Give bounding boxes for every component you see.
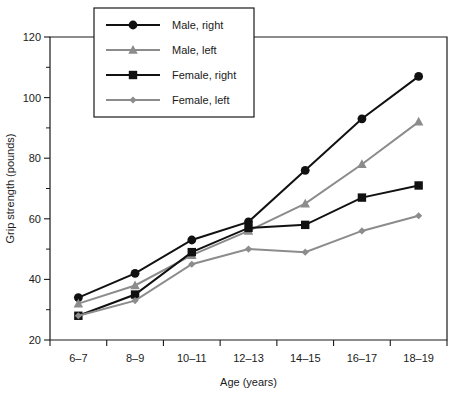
data-point xyxy=(358,193,366,201)
data-point xyxy=(301,166,310,175)
x-tick-label: 8–9 xyxy=(126,352,144,364)
data-point xyxy=(130,280,140,289)
data-point xyxy=(131,269,140,278)
x-tick-label: 12–13 xyxy=(233,352,264,364)
data-point xyxy=(414,181,422,189)
y-axis-title: Grip strength (pounds) xyxy=(4,133,16,243)
legend-marker-circle xyxy=(129,21,138,30)
legend-label: Female, right xyxy=(172,69,236,81)
data-point xyxy=(414,72,423,81)
x-tick-label: 6–7 xyxy=(69,352,87,364)
data-point xyxy=(244,224,252,232)
y-tick-label: 60 xyxy=(29,213,41,225)
legend-label: Male, right xyxy=(172,19,223,31)
x-axis-title: Age (years) xyxy=(220,376,277,388)
series-triangle xyxy=(74,117,424,308)
chart-canvas: 204060801001206–78–910–1112–1314–1516–17… xyxy=(0,0,466,395)
y-tick-label: 40 xyxy=(29,273,41,285)
y-tick-label: 80 xyxy=(29,152,41,164)
data-point xyxy=(415,212,422,219)
y-tick-label: 20 xyxy=(29,334,41,346)
x-tick-label: 10–11 xyxy=(177,352,207,364)
data-point xyxy=(245,246,252,253)
x-tick-label: 18–19 xyxy=(403,352,434,364)
legend-marker-square xyxy=(129,71,137,79)
data-point xyxy=(302,249,309,256)
data-point xyxy=(301,221,309,229)
chart-legend: Male, rightMale, leftFemale, rightFemale… xyxy=(94,8,254,117)
data-point xyxy=(358,227,365,234)
data-point xyxy=(414,117,424,126)
legend-label: Female, left xyxy=(172,94,229,106)
data-point xyxy=(300,199,310,208)
data-point xyxy=(188,248,196,256)
y-tick-label: 120 xyxy=(23,31,41,43)
y-tick-label: 100 xyxy=(23,92,41,104)
data-point xyxy=(187,236,196,245)
x-tick-label: 16–17 xyxy=(347,352,378,364)
legend-label: Male, left xyxy=(172,44,217,56)
grip-strength-line-chart: 204060801001206–78–910–1112–1314–1516–17… xyxy=(0,0,466,395)
data-point xyxy=(358,114,367,123)
x-tick-label: 14–15 xyxy=(290,352,321,364)
